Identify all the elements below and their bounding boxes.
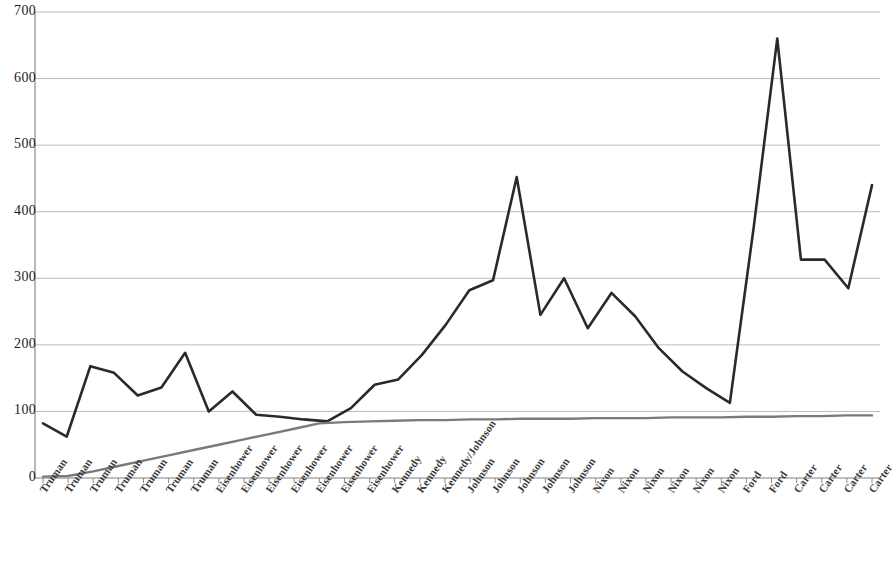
y-axis-tick-label: 600 — [0, 70, 36, 86]
y-axis-tick-label: 0 — [0, 469, 36, 485]
y-axis-tick-label: 700 — [0, 3, 36, 19]
y-axis-tick-label: 200 — [0, 336, 36, 352]
data-series-group — [43, 39, 872, 477]
gridline-group — [35, 12, 880, 478]
y-axis-tick-label: 400 — [0, 203, 36, 219]
data-line-primary — [43, 39, 872, 437]
y-axis-tick-label: 500 — [0, 136, 36, 152]
y-axis-tick-label: 100 — [0, 402, 36, 418]
y-axis-tick-label: 300 — [0, 269, 36, 285]
